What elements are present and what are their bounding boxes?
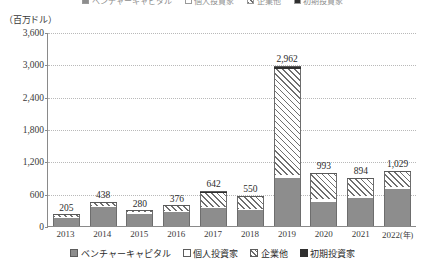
- bar-slot: 205: [48, 33, 85, 226]
- x-axis-label-2020: 2020: [305, 229, 342, 242]
- top-legend-label-0: ベンチャーキャピタル: [92, 0, 172, 6]
- bar-value-label: 438: [96, 190, 110, 200]
- bar-top-edge: [237, 196, 264, 197]
- bar-slot: 376: [158, 33, 195, 226]
- corporate-other-swatch-icon: [247, 0, 254, 4]
- bar-segment-corporate[interactable]: [384, 172, 411, 187]
- bar-slot: 894: [342, 33, 379, 226]
- x-axis-label-2013: 2013: [47, 229, 84, 242]
- y-axis-tick-label: 2,400: [2, 93, 44, 103]
- chart-container: ベンチャーキャピタル 個人投資家 企業他 初期投資家 （百万ドル） 06001,…: [0, 0, 425, 265]
- legend-label: 初期投資家: [310, 247, 355, 260]
- stacked-bar[interactable]: [200, 191, 227, 226]
- stacked-bar[interactable]: [384, 171, 411, 226]
- stacked-bar[interactable]: [310, 173, 337, 226]
- y-axis-tick-label: 1,800: [2, 125, 44, 135]
- legend-item-vc[interactable]: ベンチャーキャピタル: [70, 247, 171, 260]
- bar-top-edge: [310, 173, 337, 174]
- bar-slot: 438: [85, 33, 122, 226]
- chart-legend: ベンチャーキャピタル個人投資家企業他初期投資家: [0, 246, 425, 260]
- bars-group: 2054382803766425502,9629938941,029: [48, 33, 416, 226]
- top-legend-label-1: 個人投資家: [194, 0, 234, 6]
- legend-item-individual[interactable]: 個人投資家: [183, 247, 239, 260]
- bar-segment-corporate[interactable]: [200, 193, 227, 207]
- top-legend-label-3: 初期投資家: [303, 0, 343, 6]
- bar-segment-vc[interactable]: [53, 218, 80, 226]
- x-axis-label-2016: 2016: [158, 229, 195, 242]
- bar-slot: 642: [195, 33, 232, 226]
- stacked-bar[interactable]: [347, 178, 374, 226]
- x-axis-labels: 2013201420152016201720182019202020212022…: [47, 229, 416, 242]
- bar-value-label: 993: [317, 161, 331, 171]
- bar-slot: 550: [232, 33, 269, 226]
- bar-segment-vc[interactable]: [237, 210, 264, 226]
- y-axis-tick-label: 600: [2, 190, 44, 200]
- y-axis-tick-label: 3,000: [2, 60, 44, 70]
- legend-label: ベンチャーキャピタル: [81, 247, 171, 260]
- bar-top-edge: [90, 202, 117, 203]
- y-axis-unit-label: （百万ドル）: [4, 13, 57, 26]
- bar-top-edge: [384, 171, 411, 172]
- top-legend-item-2: 企業他: [247, 0, 281, 6]
- top-legend-item-3: 初期投資家: [294, 0, 344, 6]
- bar-top-edge: [53, 214, 80, 215]
- bar-top-edge: [347, 178, 374, 179]
- bar-value-label: 642: [206, 179, 220, 189]
- bar-value-label: 376: [170, 194, 184, 204]
- bar-segment-vc[interactable]: [274, 178, 301, 227]
- bar-slot: 280: [122, 33, 159, 226]
- top-legend-item-1: 個人投資家: [185, 0, 235, 6]
- legend-item-corporate[interactable]: 企業他: [250, 247, 288, 260]
- seed-investor-swatch-icon: [294, 0, 301, 4]
- x-axis-label-2015: 2015: [121, 229, 158, 242]
- stacked-bar[interactable]: [163, 205, 190, 226]
- corporate-swatch-icon: [250, 249, 258, 257]
- bar-top-edge: [200, 191, 227, 192]
- y-axis-tick-mark: [45, 227, 48, 228]
- stacked-bar[interactable]: [126, 210, 153, 226]
- x-axis-label-2021: 2021: [342, 229, 379, 242]
- legend-label: 企業他: [261, 247, 288, 260]
- stacked-bar[interactable]: [274, 66, 301, 226]
- y-axis-tick-label: 0: [2, 222, 44, 232]
- vc-swatch-icon: [70, 249, 78, 257]
- bar-value-label: 550: [243, 184, 257, 194]
- y-axis-tick-label: 1,200: [2, 157, 44, 167]
- bar-segment-vc[interactable]: [90, 207, 117, 226]
- bar-segment-corporate[interactable]: [347, 179, 374, 196]
- bar-value-label: 280: [133, 199, 147, 209]
- bar-segment-vc[interactable]: [310, 202, 337, 226]
- bar-slot: 2,962: [269, 33, 306, 226]
- bar-segment-corporate[interactable]: [237, 197, 264, 208]
- x-axis-label-2017: 2017: [195, 229, 232, 242]
- individual-investor-swatch-icon: [185, 0, 192, 4]
- bar-top-edge: [274, 66, 301, 67]
- bar-segment-vc[interactable]: [126, 214, 153, 226]
- seed-swatch-icon: [300, 249, 308, 257]
- bar-value-label: 2,962: [276, 54, 297, 64]
- bar-value-label: 1,029: [387, 159, 408, 169]
- bar-segment-vc[interactable]: [347, 198, 374, 226]
- x-axis-unit-suffix: (年): [400, 231, 413, 240]
- stacked-bar[interactable]: [90, 202, 117, 226]
- bar-segment-corporate[interactable]: [274, 69, 301, 176]
- bar-segment-vc[interactable]: [384, 189, 411, 226]
- plot-area: 06001,2001,8002,4003,0003,600 2054382803…: [47, 33, 416, 227]
- bar-segment-corporate[interactable]: [310, 174, 337, 199]
- bar-slot: 1,029: [379, 33, 416, 226]
- top-legend-label-2: 企業他: [257, 0, 281, 6]
- bar-slot: 993: [306, 33, 343, 226]
- legend-item-seed[interactable]: 初期投資家: [300, 247, 356, 260]
- x-axis-label-2018: 2018: [232, 229, 269, 242]
- stacked-bar[interactable]: [237, 196, 264, 226]
- x-axis-label-2022: 2022(年): [379, 229, 416, 242]
- top-legend-cropped: ベンチャーキャピタル 個人投資家 企業他 初期投資家: [0, 0, 425, 7]
- bar-segment-vc[interactable]: [163, 212, 190, 226]
- bar-value-label: 205: [59, 203, 73, 213]
- stacked-bar[interactable]: [53, 214, 80, 226]
- bar-top-edge: [126, 210, 153, 211]
- bar-top-edge: [163, 205, 190, 206]
- bar-value-label: 894: [354, 166, 368, 176]
- y-axis-tick-label: 3,600: [2, 28, 44, 38]
- bar-segment-vc[interactable]: [200, 208, 227, 226]
